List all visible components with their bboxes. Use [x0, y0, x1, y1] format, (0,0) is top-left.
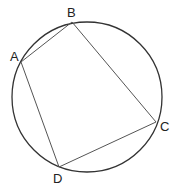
- label-d: D: [53, 171, 62, 186]
- circumcircle: [12, 22, 162, 172]
- label-b: B: [67, 5, 76, 20]
- diagram-canvas: A B C D: [0, 0, 178, 191]
- label-c: C: [160, 119, 169, 134]
- label-a: A: [10, 49, 19, 64]
- quadrilateral-abcd: [21, 22, 156, 167]
